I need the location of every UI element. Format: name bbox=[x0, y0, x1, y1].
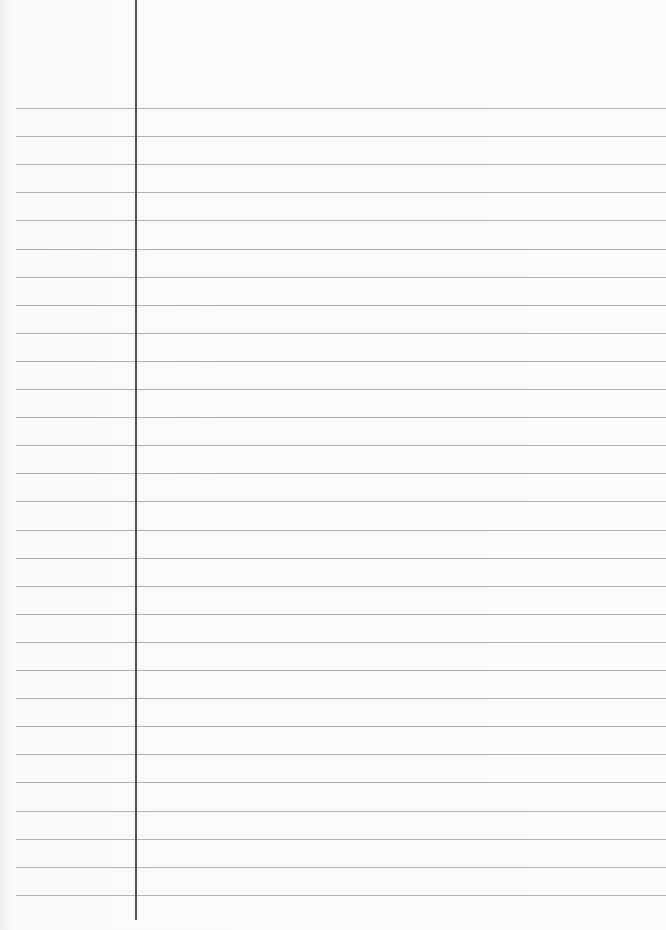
ruled-line bbox=[16, 192, 666, 193]
ruled-line bbox=[16, 895, 666, 896]
lined-paper bbox=[0, 0, 666, 930]
ruled-line bbox=[16, 445, 666, 446]
ruled-line bbox=[16, 642, 666, 643]
ruled-line bbox=[16, 136, 666, 137]
ruled-line bbox=[16, 417, 666, 418]
ruled-line bbox=[16, 614, 666, 615]
ruled-line bbox=[16, 473, 666, 474]
ruled-line bbox=[16, 164, 666, 165]
ruled-line bbox=[16, 220, 666, 221]
ruled-line bbox=[16, 670, 666, 671]
ruled-line bbox=[16, 782, 666, 783]
ruled-line bbox=[16, 839, 666, 840]
ruled-line bbox=[16, 361, 666, 362]
ruled-line bbox=[16, 305, 666, 306]
ruled-line bbox=[16, 586, 666, 587]
ruled-line bbox=[16, 698, 666, 699]
ruled-line bbox=[16, 867, 666, 868]
ruled-line bbox=[16, 558, 666, 559]
ruled-line bbox=[16, 389, 666, 390]
ruled-line bbox=[16, 277, 666, 278]
ruled-line bbox=[16, 811, 666, 812]
margin-line bbox=[135, 0, 137, 920]
ruled-line bbox=[16, 530, 666, 531]
ruled-line bbox=[16, 249, 666, 250]
ruled-line bbox=[16, 333, 666, 334]
ruled-line bbox=[16, 501, 666, 502]
ruled-line bbox=[16, 726, 666, 727]
ruled-line bbox=[16, 108, 666, 109]
ruled-line bbox=[16, 754, 666, 755]
